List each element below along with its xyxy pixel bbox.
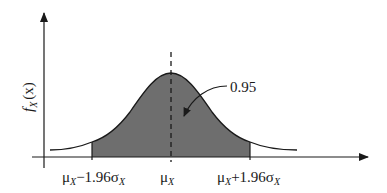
normal-distribution-figure: 0.95 fX(x) μX−1.96σX μX μX+1.96σX [0, 0, 387, 193]
y-axis-label: fX(x) [20, 82, 39, 112]
x-label-mean: μX [160, 169, 175, 187]
svg-text:fX(x): fX(x) [20, 82, 39, 112]
area-label: 0.95 [230, 79, 256, 95]
x-label-lower-bound: μX−1.96σX [62, 169, 126, 187]
x-label-upper-bound: μX+1.96σX [217, 169, 281, 187]
